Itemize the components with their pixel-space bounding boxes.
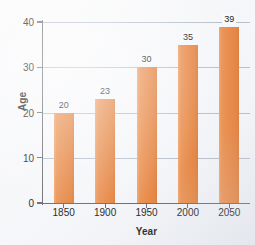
y-tick-mark-40: [37, 21, 42, 22]
x-tick-label-1950: 1950: [135, 207, 157, 218]
bar-2050: [219, 27, 239, 203]
bar-value-label-2050: 39: [222, 14, 236, 24]
bar-chart-figure: Age Year 010203040 18501900195020002050 …: [0, 0, 255, 245]
bar-value-label-2000: 35: [181, 32, 195, 42]
y-tick-label-20: 20: [0, 107, 34, 118]
bar-value-label-1950: 30: [139, 54, 153, 64]
y-tick-mark-30: [37, 67, 42, 68]
y-tick-label-40: 40: [0, 17, 34, 28]
bar-1900: [95, 99, 115, 203]
x-axis-title: Year: [43, 226, 250, 237]
plot-area: [43, 22, 250, 203]
bar-2000: [178, 45, 198, 203]
y-tick-mark-0: [37, 202, 42, 203]
y-tick-label-0: 0: [0, 198, 34, 209]
gridline-40: [43, 22, 250, 23]
x-tick-label-1850: 1850: [53, 207, 75, 218]
y-tick-mark-20: [37, 112, 42, 113]
y-tick-label-30: 30: [0, 62, 34, 73]
y-tick-mark-10: [37, 157, 42, 158]
x-tick-label-2000: 2000: [177, 207, 199, 218]
bar-value-label-1850: 20: [57, 100, 71, 110]
bar-1950: [137, 67, 157, 203]
x-tick-label-2050: 2050: [218, 207, 240, 218]
bar-value-label-1900: 23: [98, 86, 112, 96]
y-tick-label-10: 10: [0, 152, 34, 163]
x-tick-label-1900: 1900: [94, 207, 116, 218]
bar-1850: [54, 113, 74, 204]
